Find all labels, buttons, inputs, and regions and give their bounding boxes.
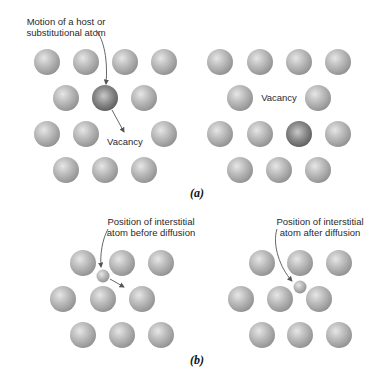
interstitial-before-label: Position of interstitial atom before dif… bbox=[107, 217, 196, 238]
host-atom bbox=[287, 322, 313, 348]
host-atom bbox=[325, 121, 351, 147]
host-atom bbox=[109, 250, 135, 276]
diffusion-diagram: Motion of a host or substitutional atom … bbox=[0, 0, 380, 382]
interstitial-atom bbox=[294, 281, 307, 294]
host-atom bbox=[266, 157, 292, 183]
moved-substitutional-atom bbox=[286, 121, 312, 147]
interstitial-before-line2: atom before diffusion bbox=[107, 228, 196, 239]
host-atom bbox=[151, 49, 177, 75]
host-atom bbox=[286, 49, 312, 75]
host-atom bbox=[207, 49, 233, 75]
host-atom bbox=[92, 157, 118, 183]
host-atom bbox=[34, 49, 60, 75]
host-atom bbox=[326, 322, 352, 348]
motion-label-line2: substitutional atom bbox=[26, 28, 105, 39]
host-atom bbox=[131, 157, 157, 183]
interstitial-atom bbox=[97, 270, 110, 283]
panel-a-tag: (a) bbox=[190, 186, 204, 201]
host-atom bbox=[326, 250, 352, 276]
panel-b-right-lattice bbox=[228, 229, 352, 348]
interstitial-after-line1: Position of interstitial bbox=[276, 217, 363, 228]
host-atom bbox=[249, 250, 275, 276]
host-atom bbox=[53, 85, 79, 111]
host-atom bbox=[70, 322, 96, 348]
host-atom bbox=[90, 286, 116, 312]
host-atom bbox=[306, 286, 332, 312]
host-atom bbox=[50, 286, 76, 312]
vacancy-label-right: Vacancy bbox=[261, 93, 297, 104]
host-atom bbox=[247, 49, 273, 75]
interstitial-after-line2: atom after diffusion bbox=[276, 228, 363, 239]
host-atom bbox=[228, 286, 254, 312]
host-atom bbox=[148, 250, 174, 276]
vacancy-label-left: Vacancy bbox=[107, 137, 143, 148]
motion-arrow bbox=[110, 279, 124, 287]
panel-b-left-lattice bbox=[50, 229, 174, 348]
host-atom bbox=[73, 121, 99, 147]
host-atom bbox=[109, 322, 135, 348]
host-atom bbox=[267, 286, 293, 312]
interstitial-before-line1: Position of interstitial bbox=[107, 217, 196, 228]
motion-label: Motion of a host or substitutional atom bbox=[26, 17, 105, 38]
host-atom bbox=[112, 49, 138, 75]
host-atom bbox=[148, 322, 174, 348]
motion-label-line1: Motion of a host or bbox=[26, 17, 105, 28]
panel-a-left-lattice bbox=[34, 30, 177, 183]
host-atom bbox=[247, 121, 273, 147]
host-atom bbox=[53, 157, 79, 183]
host-atom bbox=[249, 322, 275, 348]
host-atom bbox=[227, 85, 253, 111]
host-atom bbox=[227, 157, 253, 183]
motion-arrow bbox=[112, 110, 124, 132]
host-atom bbox=[129, 286, 155, 312]
host-atom bbox=[305, 85, 331, 111]
panel-b-tag: (b) bbox=[190, 353, 204, 368]
host-atom bbox=[34, 121, 60, 147]
host-atom bbox=[207, 121, 233, 147]
host-atom bbox=[70, 250, 96, 276]
host-atom bbox=[325, 49, 351, 75]
host-atom bbox=[305, 157, 331, 183]
panel-a-right-lattice bbox=[207, 49, 351, 183]
host-atom bbox=[131, 85, 157, 111]
host-atom bbox=[287, 250, 313, 276]
host-atom bbox=[151, 121, 177, 147]
host-atom bbox=[73, 49, 99, 75]
moving-substitutional-atom bbox=[92, 85, 118, 111]
interstitial-after-label: Position of interstitial atom after diff… bbox=[276, 217, 363, 238]
